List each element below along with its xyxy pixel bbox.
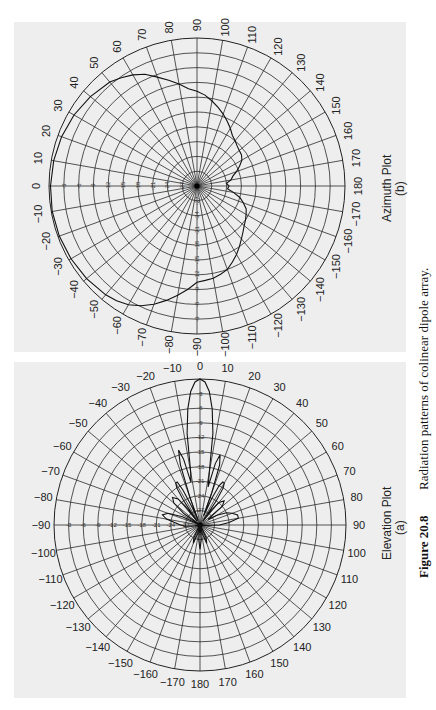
angle-tick-label: 50 (88, 57, 100, 69)
figure-canvas: 0102030405060708090100110120130140150160… (0, 0, 436, 710)
angle-tick-label: −80 (163, 335, 175, 354)
radial-tick-label: -6 (194, 301, 200, 307)
radial-tick-label: -12 (105, 181, 111, 190)
angle-tick-label: −70 (41, 465, 60, 477)
angle-tick-label: 170 (350, 149, 362, 167)
radial-tick-label: -24 (194, 211, 200, 220)
angle-tick-label: 140 (314, 73, 326, 91)
radial-tick-label: -12 (108, 522, 117, 528)
caption-label: Figure 20.8 (416, 515, 431, 578)
angle-tick-label: −20 (136, 370, 155, 382)
angle-tick-label: 70 (343, 465, 355, 477)
radial-tick-label: -21 (152, 522, 161, 528)
angle-tick-label: −60 (53, 440, 72, 452)
radial-tick-label: -24 (196, 493, 205, 499)
angle-tick-label: −160 (133, 668, 158, 680)
angle-tick-label: 70 (136, 29, 148, 41)
angle-tick-label: −30 (111, 381, 130, 393)
angle-tick-label: −10 (32, 205, 44, 224)
radial-tick-label: -9 (95, 522, 101, 528)
radial-tick-label: -27 (196, 507, 205, 513)
angle-tick-label: 160 (245, 668, 263, 680)
angle-tick-label: 20 (248, 370, 260, 382)
angle-tick-label: 170 (218, 676, 236, 688)
radial-tick-label: -12 (196, 434, 205, 440)
angle-tick-label: 100 (347, 547, 365, 559)
angle-tick-label: 120 (272, 37, 284, 55)
caption-text: Radiation patterns of colinear dipole ar… (416, 268, 431, 490)
elevation-plot-title: Elevation Plot (380, 486, 394, 560)
radial-tick-label: -6 (81, 522, 87, 528)
radial-tick-label: -9 (197, 420, 203, 426)
angle-tick-label: −130 (66, 621, 91, 633)
angle-tick-label: −150 (330, 254, 342, 279)
angle-tick-label: 140 (293, 641, 311, 653)
radial-tick-label: -3 (66, 522, 72, 528)
angle-tick-label: 180 (191, 678, 209, 690)
radial-tick-label: -6 (76, 183, 82, 189)
angle-tick-label: −110 (246, 325, 258, 349)
angle-tick-label: −20 (40, 232, 52, 251)
angle-tick-label: 0 (197, 360, 203, 372)
angle-tick-label: −100 (219, 332, 231, 357)
angle-tick-label: 60 (332, 440, 344, 452)
radial-tick-label: -18 (194, 240, 200, 249)
angle-tick-label: 120 (329, 599, 347, 611)
radial-tick-label: -27 (179, 181, 185, 190)
angle-tick-label: 160 (342, 122, 354, 140)
radial-tick-label: -15 (123, 522, 132, 528)
elevation-plot-sublabel: (a) (393, 520, 407, 535)
angle-tick-label: −140 (314, 277, 326, 302)
angle-tick-label: −120 (272, 313, 284, 338)
radial-tick-label: -18 (137, 522, 146, 528)
angle-tick-label: −50 (88, 300, 100, 319)
angle-tick-label: 110 (246, 26, 258, 44)
angle-tick-label: 90 (191, 19, 203, 31)
radial-tick-label: -21 (196, 478, 205, 484)
angle-tick-label: 130 (313, 621, 331, 633)
angle-tick-label: −130 (295, 297, 307, 322)
angle-tick-label: 110 (341, 573, 359, 585)
angle-tick-label: 80 (350, 491, 362, 503)
angle-tick-label: −10 (163, 362, 182, 374)
angle-tick-label: 90 (353, 519, 365, 531)
angle-tick-label: 150 (270, 657, 288, 669)
figure-caption: Figure 20.8 Radiation patterns of coline… (416, 268, 431, 578)
angle-tick-label: −70 (136, 328, 148, 347)
angle-tick-label: −30 (52, 257, 64, 276)
radial-tick-label: -18 (196, 464, 205, 470)
radial-tick-label: -3 (61, 183, 67, 189)
radial-tick-label: -15 (194, 255, 200, 264)
angle-tick-label: 60 (111, 40, 123, 52)
radial-tick-label: -21 (194, 225, 200, 234)
angle-tick-label: −50 (69, 417, 88, 429)
radial-tick-label: -12 (194, 270, 200, 279)
angle-tick-label: −40 (68, 280, 80, 299)
radial-tick-label: -9 (194, 286, 200, 292)
angle-tick-label: 40 (68, 76, 80, 88)
angle-tick-label: 20 (40, 125, 52, 137)
angle-tick-label: 10 (32, 152, 44, 164)
radial-tick-label: -18 (135, 181, 141, 190)
radial-tick-label: -27 (194, 196, 200, 205)
angle-tick-label: −40 (88, 397, 107, 409)
angle-tick-label: −140 (85, 641, 110, 653)
angle-tick-label: 150 (330, 96, 342, 114)
angle-tick-label: 40 (296, 397, 308, 409)
angle-tick-label: 0 (30, 183, 42, 189)
angle-tick-label: 30 (273, 381, 285, 393)
angle-tick-label: −160 (342, 229, 354, 254)
radial-tick-label: -3 (197, 391, 203, 397)
center-dot (194, 183, 199, 188)
angle-tick-label: −110 (39, 573, 63, 585)
angle-tick-label: 130 (295, 54, 307, 72)
radial-tick-label: -15 (120, 181, 126, 190)
radial-tick-label: -3 (194, 316, 200, 322)
angle-tick-label: 100 (219, 18, 231, 36)
radial-tick-label: -9 (90, 183, 96, 189)
angle-tick-label: −120 (50, 599, 75, 611)
angle-tick-label: 30 (52, 99, 64, 111)
radial-tick-label: -6 (197, 405, 203, 411)
angle-tick-label: 10 (221, 362, 233, 374)
angle-tick-label: −170 (350, 202, 362, 227)
